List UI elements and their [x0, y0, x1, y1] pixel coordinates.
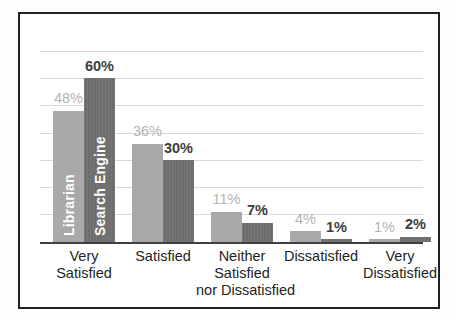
bar-value-label: 30% — [163, 141, 194, 156]
bar-group: 4%1% — [290, 12, 352, 242]
bar-librarian-2[interactable] — [211, 212, 242, 242]
category-label-line: Dissatisfied — [354, 265, 446, 282]
bar-value-label: 4% — [290, 212, 321, 227]
bar-group: 48%Librarian60%Search Engine — [53, 12, 115, 242]
axis-baseline — [40, 242, 423, 244]
category-label-line: Satisfied — [196, 265, 288, 282]
bar-librarian-1[interactable] — [132, 144, 163, 242]
bar-librarian-3[interactable] — [290, 231, 321, 242]
series-name-search: Search Engine — [93, 136, 107, 236]
bars-container: 48%Librarian60%Search Engine36%30%11%7%4… — [40, 12, 423, 242]
bar-librarian-4[interactable] — [369, 239, 400, 242]
category-label-line: nor Dissatisfied — [196, 282, 288, 299]
category-label-line: Satisfied — [38, 265, 130, 282]
bar-value-label: 60% — [84, 59, 115, 74]
category-label-line: Very — [354, 248, 446, 265]
bar-value-label: 7% — [242, 203, 273, 218]
bar-value-label: 2% — [400, 217, 431, 232]
bar-group: 11%7% — [211, 12, 273, 242]
bar-value-label: 48% — [53, 91, 84, 106]
chart-figure: 48%Librarian60%Search Engine36%30%11%7%4… — [0, 0, 458, 322]
bar-search-4[interactable] — [400, 237, 431, 242]
plot-area: 48%Librarian60%Search Engine36%30%11%7%4… — [40, 12, 440, 309]
bar-group: 1%2% — [369, 12, 431, 242]
bar-search-2[interactable] — [242, 223, 273, 242]
bar-value-label: 1% — [321, 220, 352, 235]
bar-value-label: 36% — [132, 124, 163, 139]
bar-value-label: 11% — [211, 192, 242, 207]
series-name-librarian: Librarian — [62, 174, 76, 236]
category-label-4: VeryDissatisfied — [354, 248, 446, 282]
bar-value-label: 1% — [369, 220, 400, 235]
bar-search-1[interactable] — [163, 160, 194, 242]
bar-search-3[interactable] — [321, 239, 352, 242]
bar-group: 36%30% — [132, 12, 194, 242]
